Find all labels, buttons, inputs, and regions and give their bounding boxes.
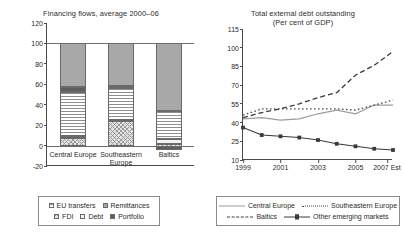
line-central-europe	[243, 105, 393, 120]
y-tick: 10	[231, 157, 239, 164]
legend-label: Debt	[88, 213, 103, 220]
legend-item-baltics: Baltics	[227, 213, 277, 220]
figure-root: Financing flows, average 2000–06 -20 0 2…	[0, 0, 404, 237]
y-tick: 120	[31, 20, 43, 27]
y-tick: 55	[231, 100, 239, 107]
legend-item-debt: Debt	[80, 213, 103, 220]
x-tick: 2003	[310, 164, 326, 171]
x-tick: 2001	[273, 164, 289, 171]
legend-row: EU transfers Remittances	[44, 200, 154, 211]
line-southeastern-europe	[243, 100, 393, 115]
bar-segment-remittances	[108, 43, 134, 86]
y-tick: -20	[33, 163, 43, 170]
y-tick: 100	[227, 44, 239, 51]
data-point-marker	[297, 136, 301, 140]
data-point-marker	[354, 144, 358, 148]
legend-label: Southeastern Europe	[331, 202, 397, 209]
left-chart-legend: EU transfers Remittances FDI Debt	[38, 196, 160, 226]
data-point-marker	[241, 126, 245, 130]
bar-segment-fdi	[60, 138, 86, 145]
legend-label: Central Europe	[248, 202, 295, 209]
legend-swatch-debt	[80, 214, 85, 219]
legend-line-southeastern-europe	[302, 202, 328, 209]
data-point-marker	[335, 142, 339, 146]
bar-segment-eu-transfers	[60, 92, 86, 136]
bar-segment-remittances	[60, 43, 86, 87]
legend-line-other-emerging-markets	[284, 213, 310, 220]
bar-segment-remittances	[156, 43, 182, 110]
legend-item-fdi: FDI	[54, 213, 73, 220]
legend-label: FDI	[62, 213, 73, 220]
legend-item-central-europe: Central Europe	[219, 202, 295, 209]
legend-item-southeastern-europe: Southeastern Europe	[302, 202, 397, 209]
legend-row: FDI Debt Portfolio	[44, 211, 154, 222]
y-tick: 40	[231, 119, 239, 126]
legend-swatch-remittances	[103, 203, 108, 208]
legend-item-remittances: Remittances	[103, 202, 150, 209]
legend-line-central-europe	[219, 202, 245, 209]
bar-segment-fdi	[108, 121, 134, 146]
x-tick: 2007 Est	[373, 164, 401, 171]
y-tick: 80	[35, 60, 43, 67]
y-tick: 20	[35, 122, 43, 129]
y-tick: 25	[231, 138, 239, 145]
legend-label: Portfolio	[118, 213, 144, 220]
legend-swatch-portfolio	[110, 214, 115, 219]
bar-segment-eu-transfers	[108, 88, 134, 120]
legend-row: Baltics Other emerging markets	[222, 211, 394, 222]
y-tick: 100	[31, 40, 43, 47]
data-point-marker	[372, 147, 376, 151]
line-baltics	[243, 51, 393, 117]
bar-southeastern-europe: Southeastern Europe	[108, 43, 134, 145]
y-tick: 60	[35, 81, 43, 88]
legend-item-eu-transfers: EU transfers	[49, 202, 96, 209]
right-chart-title: Total external debt outstanding (Per cen…	[202, 9, 404, 27]
y-tick: 70	[231, 82, 239, 89]
x-axis-line	[47, 165, 194, 166]
bar-segment-portfolio-negative	[156, 146, 182, 150]
data-point-marker	[260, 133, 264, 137]
left-chart-title: Financing flows, average 2000–06	[0, 9, 202, 18]
legend-line-baltics	[227, 213, 253, 220]
y-tick: 0	[39, 142, 43, 149]
legend-label: EU transfers	[57, 202, 96, 209]
y-tick: 40	[35, 101, 43, 108]
right-chart-title-line1: Total external debt outstanding	[202, 9, 404, 18]
right-chart-legend: Central Europe Southeastern Europe Balti…	[216, 196, 400, 226]
right-plot-area: 10 25 40 55 70 85 100 115 1999 2001 2003…	[242, 29, 392, 160]
left-chart-panel: Financing flows, average 2000–06 -20 0 2…	[0, 0, 202, 237]
line-series-group	[243, 29, 393, 160]
data-point-marker	[316, 138, 320, 142]
right-chart-panel: Total external debt outstanding (Per cen…	[202, 0, 404, 237]
legend-row: Central Europe Southeastern Europe	[222, 200, 394, 211]
data-point-marker	[279, 134, 283, 138]
legend-item-other-emerging-markets: Other emerging markets	[284, 213, 388, 220]
bar-baltics: Baltics	[156, 43, 182, 145]
legend-swatch-eu-transfers	[49, 203, 54, 208]
x-tick: 2005	[348, 164, 364, 171]
left-plot-area: -20 0 20 40 60 80 100 120	[46, 23, 194, 166]
bar-central-europe: Central Europe	[60, 43, 86, 145]
y-tick: 85	[231, 63, 239, 70]
category-label: Baltics	[138, 151, 200, 159]
data-point-marker	[391, 148, 395, 152]
bar-segment-eu-transfers	[156, 111, 182, 140]
x-tick: 1999	[235, 164, 251, 171]
legend-label: Baltics	[256, 213, 277, 220]
legend-item-portfolio: Portfolio	[110, 213, 144, 220]
legend-swatch-fdi	[54, 214, 59, 219]
legend-label: Remittances	[111, 202, 150, 209]
x-axis-line	[243, 159, 392, 160]
legend-label: Other emerging markets	[313, 213, 388, 220]
y-tick: 115	[228, 26, 239, 33]
